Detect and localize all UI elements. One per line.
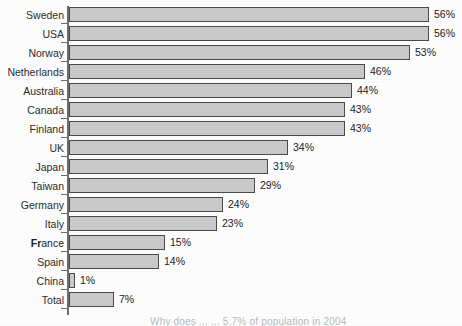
- bar-value-label: 24%: [228, 197, 249, 211]
- axis-tick: [61, 99, 68, 100]
- axis-tick: [61, 194, 68, 195]
- bar-value-label: 34%: [293, 140, 314, 154]
- bar-fill: [69, 273, 75, 288]
- category-label-norway: Norway: [0, 46, 64, 60]
- axis-tick: [61, 213, 68, 214]
- bar-fill: [69, 102, 345, 117]
- axis-tick: [61, 118, 68, 119]
- bar-fill: [69, 292, 114, 307]
- bar-value-label: 56%: [434, 26, 455, 40]
- bar-row: Italy23%: [0, 215, 462, 234]
- category-label-italy: Italy: [0, 217, 64, 231]
- bar-fill: [69, 216, 217, 231]
- category-label-sweden: Sweden: [0, 8, 64, 22]
- bar-value-label: 29%: [260, 178, 281, 192]
- bar-row: Canada43%: [0, 101, 462, 120]
- category-label-taiwan: Taiwan: [0, 179, 64, 193]
- bar-value-label: 1%: [80, 273, 95, 287]
- bar-taiwan: [69, 178, 255, 193]
- bar-italy: [69, 216, 217, 231]
- bar-fill: [69, 83, 352, 98]
- bar-row: Norway53%: [0, 44, 462, 63]
- axis-tick: [61, 308, 68, 309]
- axis-tick: [61, 289, 68, 290]
- axis-tick: [61, 251, 68, 252]
- bar-fill: [69, 254, 159, 269]
- figure-caption: Why does ... ... 5.7% of population in 2…: [150, 316, 462, 326]
- axis-tick: [61, 232, 68, 233]
- bar-fill: [69, 64, 365, 79]
- category-label-finland: Finland: [0, 122, 64, 136]
- bar-row: China1%: [0, 272, 462, 291]
- bar-usa: [69, 26, 429, 41]
- bar-value-label: 56%: [434, 7, 455, 21]
- bar-canada: [69, 102, 345, 117]
- bar-row: Total7%: [0, 291, 462, 310]
- bar-france: [69, 235, 165, 250]
- category-label-australia: Australia: [0, 84, 64, 98]
- bar-value-label: 44%: [357, 83, 378, 97]
- bar-sweden: [69, 7, 429, 22]
- bar-value-label: 53%: [415, 45, 436, 59]
- category-label-canada: Canada: [0, 103, 64, 117]
- category-label-uk: UK: [0, 141, 64, 155]
- bar-row: Taiwan29%: [0, 177, 462, 196]
- bar-value-label: 43%: [350, 102, 371, 116]
- category-label-total: Total: [0, 293, 64, 307]
- axis-tick: [61, 42, 68, 43]
- bar-row: Australia44%: [0, 82, 462, 101]
- bar-row: UK34%: [0, 139, 462, 158]
- category-label-france: France: [0, 236, 64, 250]
- bar-row: Sweden56%: [0, 6, 462, 25]
- bar-total: [69, 292, 114, 307]
- bar-fill: [69, 178, 255, 193]
- bar-value-label: 23%: [222, 216, 243, 230]
- bar-row: USA56%: [0, 25, 462, 44]
- bar-row: Netherlands46%: [0, 63, 462, 82]
- axis-tick: [61, 80, 68, 81]
- bar-value-label: 46%: [370, 64, 391, 78]
- bar-fill: [69, 121, 345, 136]
- bar-australia: [69, 83, 352, 98]
- bar-fill: [69, 197, 223, 212]
- bar-japan: [69, 159, 268, 174]
- bar-spain: [69, 254, 159, 269]
- bar-germany: [69, 197, 223, 212]
- bar-netherlands: [69, 64, 365, 79]
- bar-fill: [69, 235, 165, 250]
- bar-row: Germany24%: [0, 196, 462, 215]
- bar-row: Japan31%: [0, 158, 462, 177]
- category-label-germany: Germany: [0, 198, 64, 212]
- bar-norway: [69, 45, 410, 60]
- bar-uk: [69, 140, 288, 155]
- category-label-spain: Spain: [0, 255, 64, 269]
- bar-value-label: 31%: [273, 159, 294, 173]
- category-label-netherlands: Netherlands: [0, 65, 64, 79]
- bar-row: Spain14%: [0, 253, 462, 272]
- bar-finland: [69, 121, 345, 136]
- bar-value-label: 43%: [350, 121, 371, 135]
- category-label-japan: Japan: [0, 160, 64, 174]
- bar-fill: [69, 140, 288, 155]
- axis-tick: [61, 61, 68, 62]
- axis-tick: [61, 270, 68, 271]
- bar-fill: [69, 26, 429, 41]
- bar-value-label: 15%: [170, 235, 191, 249]
- bar-rows-container: Sweden56%USA56%Norway53%Netherlands46%Au…: [0, 6, 462, 310]
- bar-row: France15%: [0, 234, 462, 253]
- category-label-usa: USA: [0, 27, 64, 41]
- axis-tick: [61, 137, 68, 138]
- bar-fill: [69, 7, 429, 22]
- chart-page: Sweden56%USA56%Norway53%Netherlands46%Au…: [0, 0, 462, 326]
- bar-value-label: 7%: [119, 292, 134, 306]
- category-label-china: China: [0, 274, 64, 288]
- bar-row: Finland43%: [0, 120, 462, 139]
- axis-tick: [61, 23, 68, 24]
- bar-fill: [69, 45, 410, 60]
- horizontal-bar-chart: Sweden56%USA56%Norway53%Netherlands46%Au…: [0, 0, 462, 326]
- bar-fill: [69, 159, 268, 174]
- bar-value-label: 14%: [164, 254, 185, 268]
- bar-china: [69, 273, 75, 288]
- axis-tick: [61, 175, 68, 176]
- axis-tick: [61, 156, 68, 157]
